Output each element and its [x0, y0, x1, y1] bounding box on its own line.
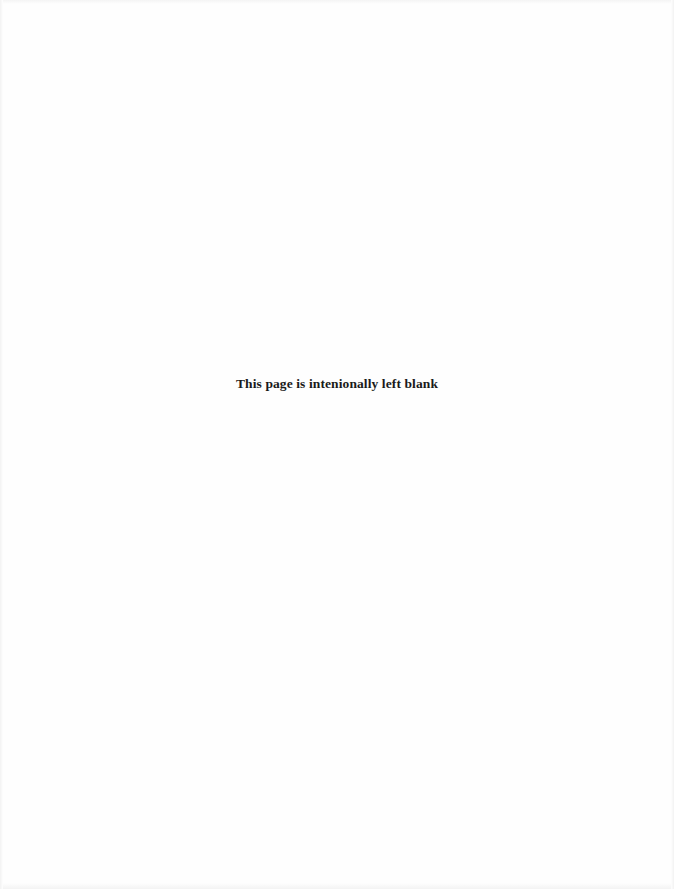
scan-edge-bottom — [0, 883, 674, 889]
scan-edge-left — [0, 0, 3, 889]
scan-edge-top — [0, 0, 674, 4]
blank-page: This page is intenionally left blank — [0, 0, 674, 889]
blank-page-notice: This page is intenionally left blank — [0, 375, 674, 393]
